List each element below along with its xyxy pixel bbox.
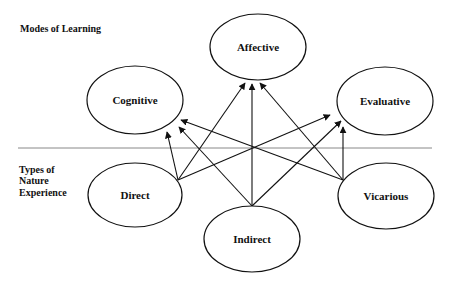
node-direct: Direct xyxy=(88,163,182,227)
node-vicarious: Vicarious xyxy=(338,163,434,229)
node-evaluative: Evaluative xyxy=(337,67,433,135)
diagram-canvas: Modes of Learning Types of Nature Experi… xyxy=(0,0,451,284)
types-label-line-3: Experience xyxy=(19,187,67,198)
modes-of-learning-label: Modes of Learning xyxy=(20,23,101,34)
types-of-experience-label: Types of Nature Experience xyxy=(19,164,67,198)
edges-from-vicarious xyxy=(181,83,343,180)
node-indirect: Indirect xyxy=(204,206,300,272)
node-indirect-label: Indirect xyxy=(233,233,271,245)
node-affective: Affective xyxy=(210,14,306,80)
node-affective-label: Affective xyxy=(237,41,279,53)
types-label-line-1: Types of xyxy=(19,164,55,175)
node-evaluative-label: Evaluative xyxy=(360,95,410,107)
types-label-line-2: Nature xyxy=(19,175,49,186)
node-vicarious-label: Vicarious xyxy=(364,190,410,202)
edge-vicarious-cognitive xyxy=(181,120,343,180)
node-cognitive: Cognitive xyxy=(87,66,183,134)
node-cognitive-label: Cognitive xyxy=(112,94,157,106)
edge-indirect-evaluative xyxy=(252,121,341,206)
diagram-svg: Modes of Learning Types of Nature Experi… xyxy=(0,0,451,284)
edge-indirect-cognitive xyxy=(179,127,252,206)
edges-from-direct xyxy=(167,83,330,180)
node-direct-label: Direct xyxy=(120,189,149,201)
